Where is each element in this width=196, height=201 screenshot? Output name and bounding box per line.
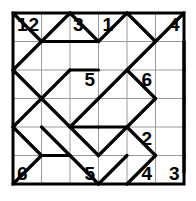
cell-diagonal-fwd: [13, 42, 42, 71]
cell-diagonal-fwd: [42, 13, 71, 42]
clue-number: 6: [138, 70, 156, 89]
cell-diagonal-back: [13, 127, 42, 156]
cell-diagonal-fwd: [42, 70, 71, 99]
clue-number: 4: [138, 164, 156, 183]
cell-diagonal-fwd: [127, 42, 156, 71]
clue-number: 2: [25, 15, 43, 34]
clue-number: 3: [165, 164, 183, 183]
slalom-puzzle-board: 123145626543: [0, 0, 196, 201]
cell-diagonal-fwd: [99, 127, 128, 156]
clue-number: 2: [138, 129, 156, 148]
clue-number: 5: [81, 70, 99, 89]
clue-number: 5: [81, 164, 99, 183]
clue-number: 3: [69, 15, 87, 34]
cell-diagonal-back: [13, 70, 42, 99]
cell-diagonal-back: [42, 99, 71, 128]
cell-diagonal-back: [127, 13, 156, 42]
cell-diagonal-back: [42, 127, 71, 156]
cell-diagonal-back: [70, 127, 99, 156]
clue-number: 1: [99, 15, 117, 34]
cell-diagonal-fwd: [99, 70, 128, 99]
clue-number: 4: [165, 15, 183, 34]
cell-diagonal-fwd: [99, 156, 128, 185]
cell-diagonal-fwd: [13, 99, 42, 128]
clue-number: 6: [13, 164, 31, 183]
cell-diagonal-fwd: [127, 99, 156, 128]
cell-diagonal-fwd: [70, 99, 99, 128]
